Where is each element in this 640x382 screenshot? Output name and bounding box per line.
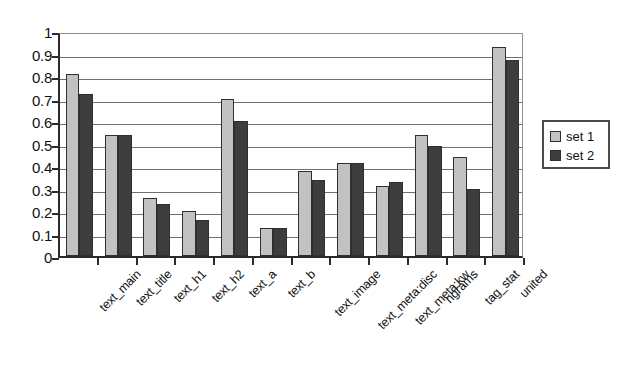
bar-group bbox=[486, 34, 525, 256]
bar-group bbox=[60, 34, 99, 256]
bar bbox=[182, 211, 196, 256]
bar bbox=[298, 171, 312, 257]
bar-group bbox=[176, 34, 215, 256]
bar bbox=[234, 121, 248, 256]
legend-item[interactable]: set 2 bbox=[550, 146, 608, 165]
y-tick-label: 0.8 bbox=[0, 70, 52, 85]
y-tick-label: 0.9 bbox=[0, 48, 52, 63]
x-axis-label: text_h1 bbox=[171, 268, 208, 305]
x-tick-mark bbox=[407, 258, 409, 265]
bar-group bbox=[448, 34, 487, 256]
bar-group bbox=[293, 34, 332, 256]
x-axis-label: text_image bbox=[332, 268, 383, 319]
bar-group bbox=[138, 34, 177, 256]
bar bbox=[376, 186, 390, 256]
y-tick-label: 0.4 bbox=[0, 160, 52, 175]
bar-group bbox=[370, 34, 409, 256]
x-tick-mark bbox=[368, 258, 370, 265]
bar bbox=[492, 47, 506, 256]
bar-group bbox=[331, 34, 370, 256]
x-tick-mark bbox=[213, 258, 215, 265]
x-axis-label: text_h2 bbox=[210, 268, 247, 305]
y-tick-label: 0.5 bbox=[0, 138, 52, 153]
bar bbox=[337, 163, 351, 256]
bar bbox=[118, 135, 132, 257]
x-tick-mark bbox=[523, 258, 525, 265]
x-tick-mark bbox=[291, 258, 293, 265]
legend-item[interactable]: set 1 bbox=[550, 127, 608, 146]
bar-group bbox=[99, 34, 138, 256]
bar bbox=[428, 146, 442, 256]
bar bbox=[221, 99, 235, 257]
bar bbox=[66, 74, 80, 256]
legend-swatch-set-1 bbox=[550, 131, 561, 142]
x-tick-mark bbox=[329, 258, 331, 265]
y-tick-label: 0 bbox=[0, 250, 52, 265]
bar bbox=[389, 182, 403, 256]
x-axis-label: text_main bbox=[97, 268, 143, 314]
bar bbox=[351, 163, 365, 256]
x-axis-label: text_b bbox=[285, 268, 317, 300]
bar bbox=[506, 60, 520, 256]
x-tick-mark bbox=[97, 258, 99, 265]
bar-chart: 10.90.80.70.60.50.40.30.20.10 text_maint… bbox=[0, 0, 640, 382]
bar bbox=[260, 228, 274, 256]
x-axis-label: united bbox=[518, 268, 550, 300]
x-tick-mark bbox=[446, 258, 448, 265]
bar bbox=[157, 204, 171, 256]
bar bbox=[467, 189, 481, 257]
y-tick-label: 0.7 bbox=[0, 93, 52, 108]
bar-group bbox=[215, 34, 254, 256]
bar bbox=[143, 198, 157, 257]
x-tick-mark bbox=[136, 258, 138, 265]
legend-label-set-2: set 2 bbox=[566, 149, 594, 162]
x-tick-mark bbox=[252, 258, 254, 265]
bar bbox=[415, 135, 429, 257]
bar bbox=[79, 94, 93, 256]
y-tick-mark bbox=[52, 258, 59, 260]
bar bbox=[312, 180, 326, 257]
y-tick-label: 0.3 bbox=[0, 183, 52, 198]
x-tick-mark bbox=[484, 258, 486, 265]
bar bbox=[196, 220, 210, 256]
y-tick-label: 1 bbox=[0, 25, 52, 40]
bar-group bbox=[409, 34, 448, 256]
legend-label-set-1: set 1 bbox=[566, 130, 594, 143]
bar bbox=[273, 228, 287, 256]
x-tick-mark bbox=[174, 258, 176, 265]
y-tick-label: 0.6 bbox=[0, 115, 52, 130]
x-axis-label: text_a bbox=[247, 268, 279, 300]
y-tick-label: 0.2 bbox=[0, 205, 52, 220]
plot-area bbox=[58, 33, 523, 258]
bar bbox=[453, 157, 467, 256]
bar bbox=[105, 135, 119, 257]
legend: set 1 set 2 bbox=[542, 120, 610, 169]
x-axis-label: tag_stat bbox=[482, 268, 522, 308]
bar-group bbox=[254, 34, 293, 256]
legend-swatch-set-2 bbox=[550, 150, 561, 161]
y-tick-label: 0.1 bbox=[0, 228, 52, 243]
